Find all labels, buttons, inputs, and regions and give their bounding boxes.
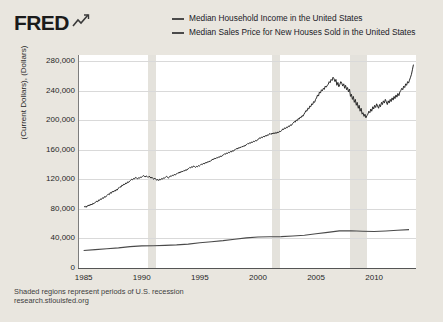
series-line [84, 65, 413, 208]
x-tick-label: 2010 [365, 273, 383, 282]
x-tick-label: 2005 [307, 273, 325, 282]
plot-area [79, 55, 416, 268]
series-layer [79, 55, 416, 268]
source-url: research.stlouisfed.org [14, 296, 89, 305]
legend-swatch-new-house-price [172, 32, 184, 34]
y-tick-label: 0 [15, 264, 75, 272]
fred-chart-screenshot: FRED Median Household Income in the Unit… [0, 0, 443, 322]
x-tick-label: 1995 [191, 273, 209, 282]
y-axis-title: (Current Dollars), (Dollars) [19, 18, 28, 168]
series-line [84, 230, 409, 251]
y-tick-label: 40,000 [15, 234, 75, 242]
y-tick-label: 80,000 [15, 205, 75, 213]
x-tick-label: 2000 [249, 273, 267, 282]
legend-item-new-house-price: Median Sales Price for New Houses Sold i… [172, 27, 434, 39]
x-tick-label: 1985 [75, 273, 93, 282]
x-tick-label: 1990 [133, 273, 151, 282]
swoosh-chart-icon [72, 14, 90, 28]
recession-note: Shaded regions represent periods of U.S.… [14, 287, 184, 296]
legend-item-household-income: Median Household Income in the United St… [172, 13, 434, 25]
chart-legend: Median Household Income in the United St… [172, 13, 434, 41]
x-axis-labels: 198519901995200020052010 [79, 273, 416, 285]
legend-label-new-house-price: Median Sales Price for New Houses Sold i… [189, 27, 415, 38]
legend-label-household-income: Median Household Income in the United St… [189, 13, 362, 24]
legend-swatch-household-income [172, 18, 184, 20]
y-tick-label: 120,000 [15, 175, 75, 183]
